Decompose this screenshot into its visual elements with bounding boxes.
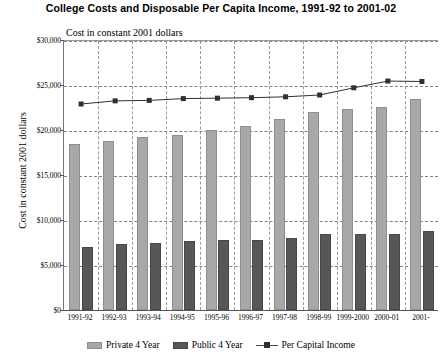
y-axis-tick-label: $5,000 bbox=[0, 261, 61, 270]
legend-item-private-4-year[interactable]: Private 4 Year bbox=[87, 340, 160, 350]
legend-swatch-per-capita-income bbox=[256, 341, 278, 349]
line-marker-1993-94 bbox=[147, 98, 152, 103]
x-axis-tick-label: 1994-95 bbox=[165, 313, 199, 322]
line-marker-1999-2000 bbox=[351, 85, 356, 90]
line-series-per-capita-income bbox=[64, 41, 439, 311]
y-axis-tick-label: $20,000 bbox=[0, 126, 61, 135]
y-axis-tick-mark bbox=[60, 175, 64, 176]
x-axis-tick-label: 2001- bbox=[404, 313, 438, 322]
legend-item-label: Private 4 Year bbox=[106, 340, 160, 350]
y-axis-tick-mark bbox=[60, 265, 64, 266]
x-axis-tick-label: 1993-94 bbox=[131, 313, 165, 322]
chart-legend: Private 4 YearPublic 4 YearPer Capital I… bbox=[0, 340, 442, 350]
legend-item-per-capital-income[interactable]: Per Capital Income bbox=[256, 340, 355, 350]
x-axis-tick-label: 2000-01 bbox=[370, 313, 404, 322]
legend-item-public-4-year[interactable]: Public 4 Year bbox=[173, 340, 243, 350]
x-axis-tick-label: 1998-99 bbox=[302, 313, 336, 322]
y-axis-tick-label: $15,000 bbox=[0, 171, 61, 180]
line-marker-1996-97 bbox=[249, 95, 254, 100]
line-marker-1994-95 bbox=[181, 96, 186, 101]
line-marker-2000-01 bbox=[385, 79, 390, 84]
chart-container: College Costs and Disposable Per Capita … bbox=[0, 0, 442, 363]
legend-swatch-private-4-year bbox=[87, 342, 102, 349]
x-axis-line bbox=[63, 310, 438, 311]
chart-title: College Costs and Disposable Per Capita … bbox=[0, 2, 442, 14]
y-axis-tick-mark bbox=[60, 40, 64, 41]
legend-swatch-public-4-year bbox=[173, 342, 188, 349]
y-axis-tick-mark bbox=[60, 130, 64, 131]
y-axis-tick-label: $0 bbox=[0, 306, 61, 315]
x-axis-tick-label: 1999-2000 bbox=[336, 313, 370, 322]
line-marker-1998-99 bbox=[317, 93, 322, 98]
legend-item-label: Per Capital Income bbox=[282, 340, 355, 350]
y-axis-tick-mark bbox=[60, 310, 64, 311]
y-axis-tick-mark bbox=[60, 85, 64, 86]
line-marker-1997-98 bbox=[283, 94, 288, 99]
x-axis-tick-label: 1997-98 bbox=[268, 313, 302, 322]
chart-subtitle: Cost in constant 2001 dollars bbox=[66, 27, 183, 38]
line-marker-1991-92 bbox=[79, 102, 84, 107]
x-axis-tick-label: 1996-97 bbox=[233, 313, 267, 322]
x-axis-tick-label: 1995-96 bbox=[199, 313, 233, 322]
line-marker-2001- bbox=[419, 79, 424, 84]
line-marker-1995-96 bbox=[215, 96, 220, 101]
x-axis-tick-label: 1992-93 bbox=[97, 313, 131, 322]
y-axis-tick-label: $30,000 bbox=[0, 36, 61, 45]
plot-area bbox=[63, 40, 438, 310]
legend-item-label: Public 4 Year bbox=[192, 340, 243, 350]
y-axis-tick-label: $10,000 bbox=[0, 216, 61, 225]
x-axis-tick-label: 1991-92 bbox=[63, 313, 97, 322]
line-marker-1992-93 bbox=[113, 98, 118, 103]
y-axis-tick-mark bbox=[60, 220, 64, 221]
y-axis-tick-label: $25,000 bbox=[0, 81, 61, 90]
line-path-per-capita-income bbox=[81, 81, 422, 104]
